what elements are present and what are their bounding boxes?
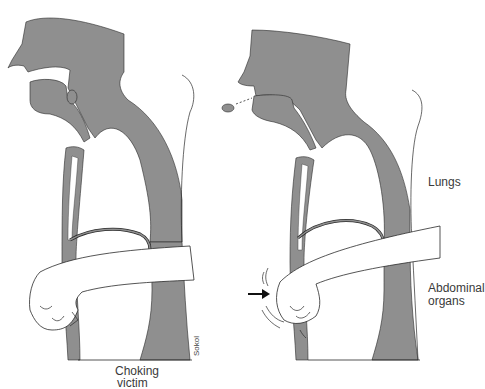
artist-signature: Sokol <box>192 336 201 356</box>
heimlich-maneuver-diagram: Choking victim Sokol <box>0 0 485 389</box>
right-head-neck-back-tissue <box>238 30 410 242</box>
right-diaphragm <box>298 221 384 244</box>
expelled-object <box>222 104 234 112</box>
expulsion-dashes <box>236 98 252 104</box>
left-panel-before: Choking victim Sokol <box>8 18 201 389</box>
left-diaphragm <box>70 229 150 250</box>
victim-caption-line2: victim <box>117 376 148 389</box>
left-head-neck-back-tissue <box>8 18 182 242</box>
abdominal-organs-label-line1: Abdominal <box>428 281 485 295</box>
left-food-obstruction <box>67 90 77 104</box>
left-back-outline <box>181 75 194 242</box>
abdominal-organs-label-line2: organs <box>428 294 465 308</box>
right-panel-during: Lungs Abdominal organs <box>222 30 485 360</box>
thrust-arrow-icon <box>248 289 270 299</box>
lungs-label: Lungs <box>428 175 461 189</box>
